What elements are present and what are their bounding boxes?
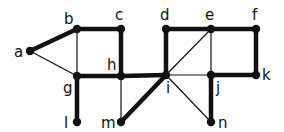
node-n — [207, 118, 215, 126]
node-label-e: e — [205, 6, 214, 24]
node-h — [117, 72, 125, 80]
labels-group: abcdefghijklmn — [14, 6, 271, 132]
node-label-n: n — [218, 114, 228, 132]
edge-h-i — [121, 75, 166, 76]
node-label-a: a — [14, 43, 23, 61]
node-label-c: c — [115, 6, 123, 24]
node-i — [162, 71, 170, 79]
graph-diagram: abcdefghijklmn — [0, 0, 284, 132]
node-f — [252, 25, 260, 33]
node-d — [162, 25, 170, 33]
node-label-h: h — [107, 56, 117, 74]
node-k — [252, 71, 260, 79]
node-g — [73, 72, 81, 80]
node-label-d: d — [160, 6, 170, 24]
node-label-f: f — [252, 6, 258, 24]
node-b — [73, 25, 81, 33]
edge-a-b — [30, 29, 77, 51]
node-label-m: m — [101, 114, 116, 132]
node-label-l: l — [64, 114, 68, 132]
edge-a-g — [30, 51, 77, 76]
edges-group — [30, 29, 256, 122]
node-j — [207, 71, 215, 79]
node-a — [26, 47, 34, 55]
edge-e-i — [166, 29, 211, 75]
edge-m-i — [121, 75, 166, 122]
node-label-k: k — [262, 66, 271, 84]
node-c — [117, 25, 125, 33]
node-label-b: b — [64, 10, 74, 28]
node-m — [117, 118, 125, 126]
graph-canvas: abcdefghijklmn — [0, 0, 284, 132]
edge-i-n — [166, 75, 211, 122]
node-label-g: g — [63, 79, 73, 97]
node-label-j: j — [215, 79, 220, 97]
node-e — [207, 25, 215, 33]
node-l — [73, 118, 81, 126]
node-label-i: i — [166, 79, 170, 97]
